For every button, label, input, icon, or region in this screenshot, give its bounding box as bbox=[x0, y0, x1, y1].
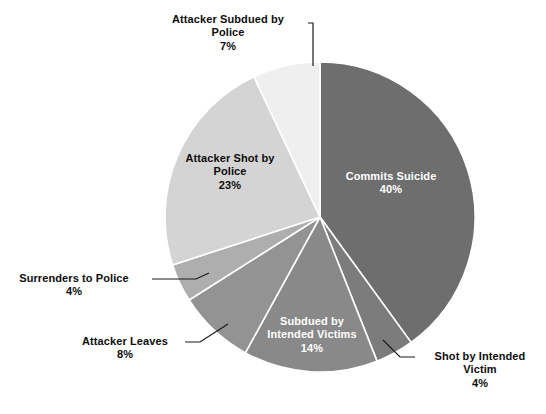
slice-label-attacker-subdued-by-police: Attacker Subdued by Police 7% bbox=[148, 13, 308, 53]
slice-label-surrenders-to-police: Surrenders to Police 4% bbox=[0, 272, 152, 299]
slice-label-attacker-subdued-by-police-line1: Attacker Subdued by bbox=[148, 13, 308, 26]
slice-label-surrenders-to-police-pct: 4% bbox=[0, 285, 152, 298]
slice-label-attacker-subdued-by-police-line2: Police bbox=[148, 26, 308, 39]
slice-label-shot-by-intended-victim: Shot by Intended Victim 4% bbox=[419, 350, 541, 390]
slice-label-attacker-leaves: Attacker Leaves 8% bbox=[65, 335, 185, 362]
slice-label-attacker-subdued-by-police-pct: 7% bbox=[148, 40, 308, 53]
pie-slices-group bbox=[165, 62, 475, 372]
slice-label-surrenders-to-police-line1: Surrenders to Police bbox=[0, 272, 152, 285]
slice-label-shot-by-intended-victim-line1: Shot by Intended bbox=[419, 350, 541, 363]
slice-label-attacker-leaves-line1: Attacker Leaves bbox=[65, 335, 185, 348]
leader-line-attacker-subdued-by-police bbox=[308, 23, 313, 66]
slice-label-attacker-leaves-pct: 8% bbox=[65, 348, 185, 361]
pie-chart-page: Commits Suicide 40% Subdued by Intended … bbox=[0, 0, 546, 414]
slice-label-shot-by-intended-victim-line2: Victim bbox=[419, 363, 541, 376]
slice-label-shot-by-intended-victim-pct: 4% bbox=[419, 377, 541, 390]
